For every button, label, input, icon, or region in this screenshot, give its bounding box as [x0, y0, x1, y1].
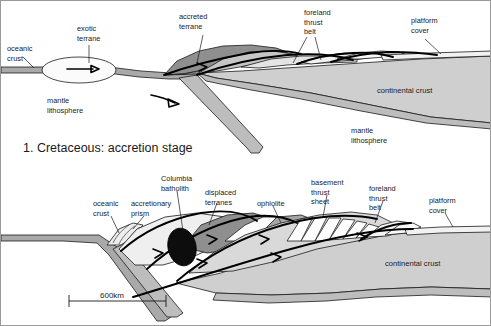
label-platform-cover: platform cover: [411, 16, 440, 35]
scale-bar-label: 600km: [100, 291, 124, 300]
label-foreland-thrust-belt: foreland thrust belt: [304, 8, 333, 36]
label-continental-crust: continental crust: [377, 86, 433, 95]
stage-caption-1: 1. Cretaceous: accretion stage: [23, 141, 193, 155]
label-foreland-thrust-belt-2: foreland thrust belt: [369, 184, 398, 212]
geological-cross-section-figure: oceanic crust exotic terrane mantle lith…: [0, 0, 491, 326]
label-accreted-terrane: accreted terrane: [179, 12, 209, 31]
panel-1-labels: oceanic crust exotic terrane mantle lith…: [7, 8, 440, 155]
label-mantle-lithosphere-right: mantle lithosphere: [351, 126, 387, 145]
label-platform-cover-2: platform cover: [429, 196, 458, 215]
label-oceanic-crust: oceanic crust: [7, 44, 35, 63]
label-exotic-terrane: exotic terrane: [77, 24, 100, 43]
label-basement-thrust-sheet: basement thrust sheet: [311, 178, 346, 206]
label-continental-crust-2: continental crust: [385, 259, 441, 268]
label-oceanic-crust-2: oceanic crust: [93, 199, 121, 218]
label-mantle-lithosphere-left: mantle lithosphere: [47, 96, 83, 115]
label-accretionary-prism: accretionary prism: [131, 199, 173, 218]
label-columbia-batholith: Columbia batholith: [161, 174, 194, 193]
label-layer: oceanic crust exotic terrane mantle lith…: [1, 1, 491, 326]
label-ophiolite: ophiolite: [257, 199, 285, 208]
panel-2-labels: oceanic crust accretionary prism Columbi…: [93, 174, 458, 300]
label-displaced-terranes: displaced terranes: [205, 188, 238, 207]
